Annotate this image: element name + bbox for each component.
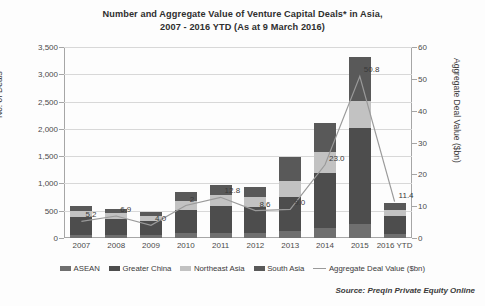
legend-line-swatch: [313, 268, 326, 269]
chart-title: Number and Aggregate Value of Venture Ca…: [0, 8, 485, 34]
chart-legend: ASEANGreater ChinaNortheast AsiaSouth As…: [0, 264, 485, 273]
y-tick-mark-right: [412, 47, 417, 48]
legend-color-swatch: [254, 266, 265, 271]
y-tick-left: 2,000: [2, 124, 58, 133]
aggregate-deal-value-line: [64, 47, 412, 238]
y-tick-right: 30: [418, 138, 458, 147]
y-tick-right: 10: [418, 202, 458, 211]
y-tick-mark-right: [412, 238, 417, 239]
legend-color-swatch: [109, 266, 120, 271]
x-tick-label: 2016 YTD: [371, 241, 419, 250]
y-tick-left: 500: [2, 206, 58, 215]
y-tick-left: 3,500: [2, 43, 58, 52]
y-tick-right: 0: [418, 234, 458, 243]
y-tick-left: 0: [2, 234, 58, 243]
line-data-label: 11.4: [399, 191, 414, 200]
y-tick-right: 20: [418, 170, 458, 179]
legend-label: Aggregate Deal Value ($bn): [329, 264, 425, 273]
line-data-label: 5.2: [85, 210, 96, 219]
line-data-label: 8.6: [259, 200, 270, 209]
line-data-label: 50.8: [364, 65, 380, 74]
y-tick-left: 1,000: [2, 179, 58, 188]
y-tick-mark-left: [59, 238, 64, 239]
chart-title-line2: 2007 - 2016 YTD (As at 9 March 2016): [0, 21, 485, 34]
line-data-label: 2: [190, 195, 194, 204]
chart-title-line1: Number and Aggregate Value of Venture Ca…: [102, 9, 382, 19]
legend-item[interactable]: Aggregate Deal Value ($bn): [313, 264, 425, 273]
y-tick-mark-right: [412, 174, 417, 175]
y-tick-mark-right: [412, 206, 417, 207]
y-tick-mark-right: [412, 79, 417, 80]
y-tick-left: 2,500: [2, 97, 58, 106]
legend-label: South Asia: [267, 264, 304, 273]
source-note: Source: Preqin Private Equity Online: [335, 286, 475, 295]
y-tick-right: 40: [418, 106, 458, 115]
line-data-label: 12.8: [225, 186, 241, 195]
legend-item[interactable]: ASEAN: [60, 264, 100, 273]
y-tick-right: 50: [418, 74, 458, 83]
legend-label: ASEAN: [73, 264, 99, 273]
legend-color-swatch: [60, 266, 71, 271]
legend-item[interactable]: Northeast Asia: [180, 264, 244, 273]
legend-label: Greater China: [122, 264, 171, 273]
y-tick-mark-right: [412, 143, 417, 144]
line-data-label: 6.9: [120, 205, 131, 214]
line-data-label: 4.0: [155, 214, 166, 223]
y-tick-left: 1,500: [2, 152, 58, 161]
chart-canvas: Number and Aggregate Value of Venture Ca…: [0, 0, 485, 306]
legend-label: Northeast Asia: [194, 264, 245, 273]
legend-item[interactable]: Greater China: [109, 264, 171, 273]
y-tick-left: 3,000: [2, 70, 58, 79]
legend-item[interactable]: South Asia: [254, 264, 305, 273]
line-data-label: 9.0: [294, 198, 305, 207]
y-tick-right: 60: [418, 43, 458, 52]
y-tick-mark-right: [412, 111, 417, 112]
line-data-label: 23.0: [329, 154, 345, 163]
legend-color-swatch: [180, 266, 191, 271]
